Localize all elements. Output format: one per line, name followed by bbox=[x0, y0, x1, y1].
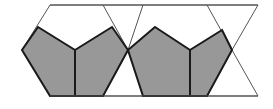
tiling-figure-container bbox=[0, 0, 273, 109]
tiling-diagram bbox=[0, 0, 273, 109]
